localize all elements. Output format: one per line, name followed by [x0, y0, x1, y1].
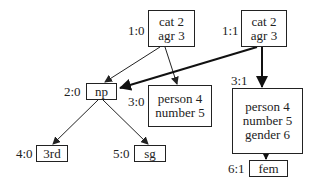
- node-feature: person 4: [245, 100, 289, 114]
- node-id-label: 1:1: [222, 24, 239, 38]
- node-id-label: 3:1: [231, 74, 248, 88]
- node-id-label: 1:0: [128, 24, 145, 38]
- node-id-label: 6:1: [228, 162, 245, 176]
- node-6-1: fem: [249, 160, 288, 177]
- node-feature: person 4: [158, 92, 202, 106]
- edge-2-0-to-4-0: [53, 100, 98, 144]
- node-feature: np: [95, 85, 108, 99]
- node-1-1: cat 2 agr 3: [241, 10, 287, 47]
- node-feature: sg: [144, 147, 156, 161]
- node-1-0: cat 2 agr 3: [148, 10, 195, 47]
- node-id-label: 5:0: [113, 147, 130, 161]
- node-feature: number 5: [243, 114, 292, 128]
- node-id-label: 3:0: [128, 95, 145, 109]
- node-3-1: person 4 number 5 gender 6: [232, 88, 303, 154]
- node-id-label: 4:0: [16, 147, 33, 161]
- node-feature: gender 6: [245, 128, 290, 142]
- node-4-0: 3rd: [36, 145, 68, 162]
- node-id-label: 2:0: [64, 85, 81, 99]
- edge-1-0-to-2-0: [105, 47, 160, 82]
- node-feature: 3rd: [43, 147, 60, 161]
- node-5-0: sg: [134, 145, 166, 162]
- node-feature: number 5: [155, 106, 204, 120]
- node-feature: agr 3: [251, 29, 277, 43]
- node-3-0: person 4 number 5: [148, 85, 212, 127]
- edge-1-0-to-3-0: [165, 47, 177, 84]
- node-feature: fem: [258, 162, 278, 176]
- node-feature: agr 3: [158, 29, 184, 43]
- node-feature: cat 2: [159, 15, 184, 29]
- node-feature: cat 2: [252, 15, 277, 29]
- node-2-0: np: [86, 83, 117, 100]
